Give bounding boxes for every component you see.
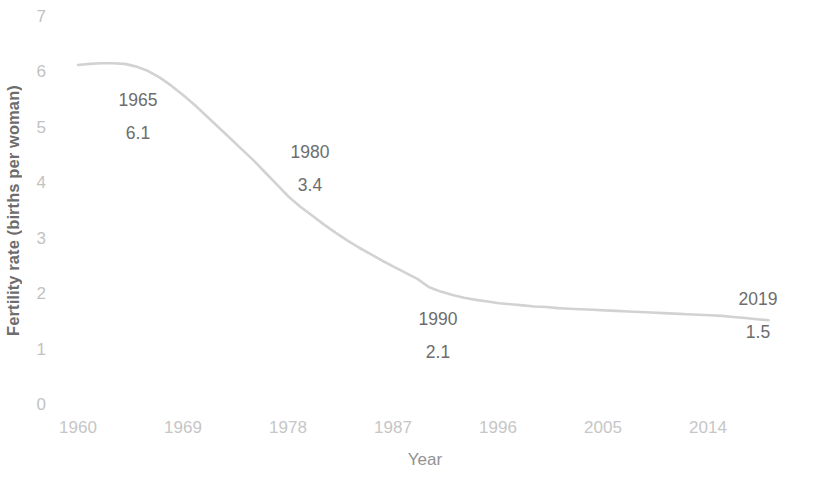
x-axis-title: Year [365,450,485,470]
annotation-2019-year: 2019 [703,283,813,316]
annotation-1965-value: 6.1 [83,117,193,150]
annotation-1990: 1990 2.1 [383,303,493,369]
fertility-rate-line-chart: Fertility rate (births per woman) 7 6 5 … [0,0,817,481]
annotation-1990-value: 2.1 [383,336,493,369]
plot-area [0,0,817,481]
annotation-1965-year: 1965 [83,84,193,117]
annotation-2019: 2019 1.5 [703,283,813,349]
annotation-1980: 1980 3.4 [255,136,365,202]
annotation-1990-year: 1990 [383,303,493,336]
annotation-1980-value: 3.4 [255,169,365,202]
annotation-1965: 1965 6.1 [83,84,193,150]
annotation-1980-year: 1980 [255,136,365,169]
annotation-2019-value: 1.5 [703,316,813,349]
